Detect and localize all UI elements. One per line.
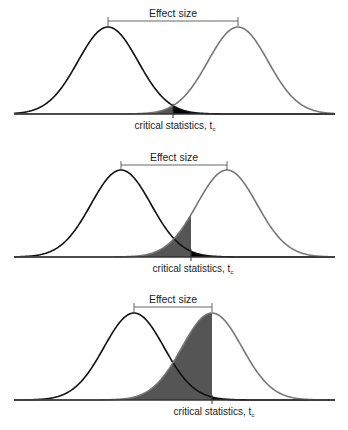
power-region-fill [14, 215, 191, 257]
panel-2: Effect size critical statistics, tc [14, 151, 335, 275]
power-region-fill [14, 313, 212, 400]
effect-size-label: Effect size [149, 293, 197, 305]
diagram-canvas: Effect size critical statistics, tc Effe… [0, 0, 348, 430]
power-diagram: Effect size critical statistics, tc Effe… [0, 0, 348, 430]
panel-3: Effect size critical statistics, tc [14, 293, 335, 418]
null-distribution-curve [14, 27, 335, 114]
effect-size-label: Effect size [149, 7, 197, 19]
critical-statistic-label: critical statistics, tc [135, 120, 216, 132]
alternative-distribution-curve [14, 27, 335, 114]
critical-statistic-label: critical statistics, tc [174, 406, 255, 418]
panel-1: Effect size critical statistics, tc [14, 7, 335, 132]
critical-statistic-label: critical statistics, tc [153, 263, 234, 275]
effect-size-label: Effect size [150, 151, 198, 163]
